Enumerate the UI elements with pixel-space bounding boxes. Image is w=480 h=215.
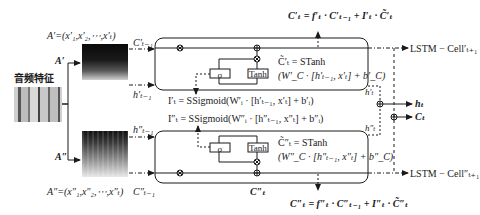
backward-cell-state-equation: C″ₜ = f″ₜ · C″ₜ₋₁ + I″ₜ · C̃″ₜ <box>290 198 409 210</box>
forward-input-arrows <box>129 49 154 85</box>
forward-candidate-equation-args: (W′_C · [h′ₜ₋₁, x′ₜ] + b′_C) <box>278 70 385 82</box>
backward-c-prev-label: C″ₜ₋₁ <box>133 186 155 198</box>
output-c-label: Cₜ <box>415 111 425 123</box>
forward-candidate-equation: C̃′ₜ = STanh <box>278 56 325 68</box>
backward-h-prev-label: h″ₜ₋₁ <box>133 124 153 136</box>
forward-h-prev-label: h′ₜ₋₁ <box>133 89 151 101</box>
backward-candidate-equation: C̃″ₜ = STanh <box>278 137 327 149</box>
audio-feature-title: 音频特征 <box>14 73 54 85</box>
backward-next-cell-label: LSTM − Cell″ₜ₊₁ <box>410 168 479 180</box>
backward-input-gate-equation: I″ₜ = SSigmoid(W″ᵢ · [h″ₜ₋₁, x″ₜ] + b″ᵢ) <box>168 113 323 125</box>
backward-sequence-label: A″=(x″₁,x″₂,⋯,x″ₜ) <box>47 186 123 198</box>
forward-input-label: A′ <box>55 55 64 67</box>
forward-sigma-label: σ <box>215 69 225 81</box>
forward-sequence-label: A′=(x′₁,x′₂,⋯,x′ₜ) <box>47 30 116 42</box>
forward-lstm-cell <box>155 38 368 90</box>
backward-tanh-label: Tanh <box>249 142 267 154</box>
forward-input-gate-equation: I′ₜ = SSigmoid(W′ᵢ · [h′ₜ₋₁, x′ₜ] + b′ᵢ) <box>168 95 314 107</box>
forward-h-out-label: h′ₜ <box>365 86 374 98</box>
backward-candidate-equation-args: (W″_C · [h″ₜ₋₁, x″ₜ] + b″_C) <box>278 151 393 163</box>
backward-sigma-label: σ <box>215 143 225 155</box>
backward-c-out-label: C″ₜ <box>250 186 266 198</box>
backward-input-label: A″ <box>55 151 67 163</box>
forward-c-prev-label: C′ₜ₋₁ <box>133 37 153 49</box>
output-h-label: hₜ <box>415 98 424 110</box>
backward-input-arrows <box>129 137 154 173</box>
forward-cell-state-equation: C′ₜ = f′ₜ · C′ₜ₋₁ + I′ₜ · C̃′ₜ <box>288 10 393 22</box>
forward-tanh-label: Tanh <box>249 68 267 80</box>
audio-feature-image <box>14 87 62 122</box>
input-split-arrows <box>62 63 80 160</box>
backward-spectrogram <box>82 131 128 177</box>
backward-h-out-label: h″ₜ <box>365 122 375 134</box>
forward-spectrogram <box>82 44 128 80</box>
forward-next-cell-label: LSTM − Cell′ₜ₊₁ <box>410 43 477 55</box>
